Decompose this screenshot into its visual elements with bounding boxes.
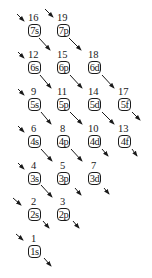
orbital-5p: 5p [57,98,70,111]
orbital-7s: 7s [28,24,41,37]
orbital-5f: 5f [118,98,131,111]
arrow-segment [102,112,114,124]
arrow-segment [18,52,24,58]
arrow-segment [16,234,23,240]
arrow-segment [102,75,114,88]
orbital-3s: 3s [28,172,41,185]
orbital-4f: 4f [118,135,131,148]
arrow-segment [18,89,24,95]
fill-order-number: 8 [60,124,65,134]
arrow-segment [69,38,81,50]
arrow-segment [41,185,52,197]
fill-order-number: 11 [57,87,67,97]
fill-order-number: 19 [57,13,68,23]
arrow-segment [102,149,108,156]
fill-order-number: 7 [91,161,96,171]
orbital-6s: 6s [28,61,41,74]
orbital-5d: 5d [88,98,101,111]
arrow-segment [40,75,51,88]
arrow-segment [70,75,82,88]
fill-order-number: 3 [60,197,65,207]
arrow-segment [70,112,82,124]
arrow-segment [39,38,50,50]
arrow-segment [45,9,53,17]
fill-order-number: 6 [31,124,36,134]
orbital-2p: 2p [57,208,70,221]
arrow-segment [132,112,140,120]
arrow-segment [18,163,24,169]
arrow-segment [13,198,21,205]
arrow-segment [17,14,24,21]
arrow-segment [71,149,82,161]
orbital-4s: 4s [28,135,41,148]
orbital-1s: 1s [28,245,41,258]
arrow-segment [104,188,109,194]
arrow-segment [44,258,51,266]
orbital-2s: 2s [28,208,41,221]
orbital-7p: 7p [57,24,70,37]
fill-order-number: 2 [31,197,36,207]
fill-order-number: 12 [28,50,39,60]
arrow-segment [18,126,24,132]
fill-order-number: 9 [31,87,36,97]
arrow-segment [132,149,137,156]
fill-order-number: 10 [88,124,99,134]
arrow-segment [73,221,79,228]
fill-order-number: 15 [57,50,68,60]
orbital-6d: 6d [88,61,101,74]
orbital-5s: 5s [28,98,41,111]
fill-order-number: 18 [88,50,99,60]
arrow-segment [43,221,49,228]
aufbau-diagram: 7s167p196s126p156d185s95p115d145f174s64p… [0,0,152,278]
orbital-4p: 4p [57,135,70,148]
orbital-3p: 3p [57,172,70,185]
fill-order-number: 17 [118,87,129,97]
orbital-6p: 6p [57,61,70,74]
fill-order-number: 4 [31,161,36,171]
fill-order-number: 13 [118,124,129,134]
orbital-4d: 4d [88,135,101,148]
arrow-segment [41,149,52,161]
orbital-3d: 3d [88,172,101,185]
arrow-segment [75,188,81,195]
fill-order-number: 5 [60,161,65,171]
fill-order-number: 1 [31,234,36,244]
arrow-segment [41,112,51,124]
fill-order-number: 14 [88,87,99,97]
fill-order-number: 16 [28,13,39,23]
